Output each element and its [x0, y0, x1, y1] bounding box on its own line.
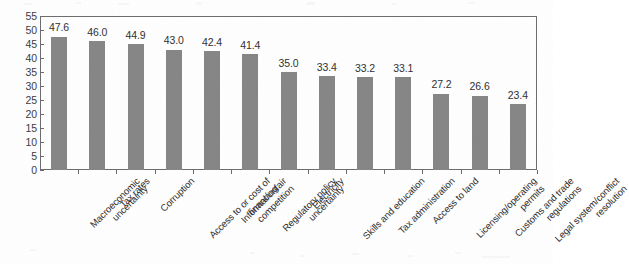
- y-tick-mark: [40, 114, 44, 115]
- y-tick-mark: [40, 100, 44, 101]
- x-tick-mark: [155, 170, 156, 174]
- y-tick-mark: [40, 30, 44, 31]
- x-tick-mark: [78, 170, 79, 174]
- y-tick-mark: [40, 86, 44, 87]
- x-tick-mark: [461, 170, 462, 174]
- y-tick-mark: [40, 128, 44, 129]
- x-category-label-line: Corruption: [158, 176, 196, 214]
- x-tick-mark: [422, 170, 423, 174]
- x-tick-mark: [231, 170, 232, 174]
- y-tick-mark: [40, 72, 44, 73]
- x-tick-mark: [116, 170, 117, 174]
- x-tick-mark: [346, 170, 347, 174]
- x-tick-mark: [499, 170, 500, 174]
- x-tick-mark: [308, 170, 309, 174]
- y-tick-mark: [40, 142, 44, 143]
- y-tick-mark: [40, 58, 44, 59]
- x-tick-mark: [537, 170, 538, 174]
- x-tick-mark: [384, 170, 385, 174]
- x-tick-mark: [269, 170, 270, 174]
- y-tick-mark: [40, 16, 44, 17]
- y-tick-mark: [40, 44, 44, 45]
- y-tick-mark: [40, 156, 44, 157]
- y-tick-mark: [40, 170, 44, 171]
- x-category-label: Corruption: [158, 176, 196, 214]
- x-tick-mark: [193, 170, 194, 174]
